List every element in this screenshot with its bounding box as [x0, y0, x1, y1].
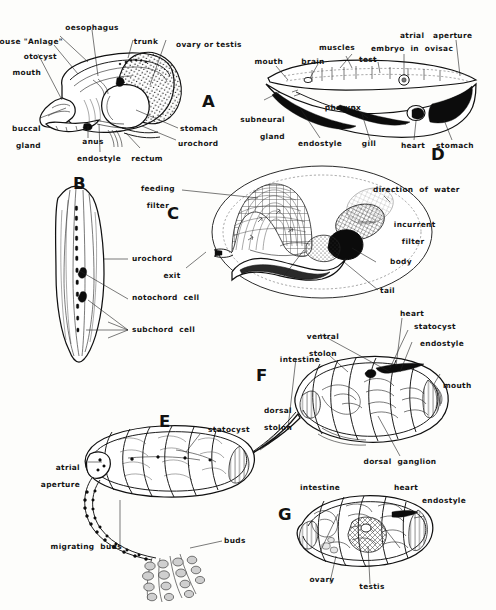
label-c-tail: tail — [380, 287, 395, 296]
label-a-buccal-gland-line2: gland — [16, 141, 41, 150]
label-c-exit: exit — [163, 272, 180, 281]
label-d-embryo-in-ovisac: embryo in ovisac — [371, 45, 453, 54]
label-d-pharynx: pharynx — [325, 104, 361, 113]
label-f-dorsal-ganglion: dorsal ganglion — [364, 458, 437, 467]
label-a-ovary-or-testis: ovary or testis — [176, 41, 242, 50]
label-g-intestine: intestine — [300, 484, 340, 493]
label-g-testis: testis — [359, 583, 385, 592]
panel-g-artwork — [297, 496, 433, 584]
label-c-direction-of-water: direction of water — [373, 186, 460, 195]
label-f-heart: heart — [400, 310, 424, 319]
label-d-atrial-aperture: atrial aperture — [400, 32, 472, 41]
label-a-trunk: trunk — [134, 38, 158, 47]
label-d-subneural-line2: gland — [260, 132, 285, 141]
label-c-feeding-filter: feeding filter — [135, 176, 175, 210]
label-e-statocyst: statocyst — [208, 426, 250, 435]
panel-b-artwork — [56, 186, 129, 362]
label-e-migrating-buds: migrating buds — [51, 543, 122, 552]
panel-letter-e: E — [159, 412, 170, 431]
label-a-oesophagus: oesophagus — [65, 24, 119, 33]
label-f-endostyle: endostyle — [420, 340, 464, 349]
figure-plate: A D B C F E G oesophagus house "Anlage" … — [0, 0, 496, 610]
label-a-buccal-gland: buccal gland — [6, 116, 41, 150]
label-d-subneural-gland: subneural gland — [234, 107, 285, 141]
label-f-mouth: mouth — [443, 382, 472, 391]
label-f-ventral-line1: ventral — [307, 332, 339, 341]
label-e-atrial-line2: aperture — [41, 480, 80, 489]
label-d-brain: brain — [301, 58, 324, 67]
label-a-endostyle: endostyle — [77, 155, 121, 164]
label-f-dorsal-line2: stolon — [264, 423, 292, 432]
label-e-buds: buds — [224, 537, 246, 546]
panel-letter-g: G — [278, 505, 292, 524]
label-a-rectum: rectum — [131, 155, 163, 164]
label-d-mouth: mouth — [254, 58, 283, 67]
label-c-incurrent-line2: filter — [402, 238, 425, 247]
label-d-test: test — [359, 56, 377, 65]
label-d-muscles: muscles — [319, 44, 355, 53]
label-c-feeding-line1: feeding — [141, 184, 175, 193]
label-a-urochord: urochord — [178, 140, 218, 149]
panel-letter-f: F — [256, 366, 267, 385]
label-f-statocyst: statocyst — [414, 323, 456, 332]
label-d-stomach: stomach — [436, 142, 474, 151]
label-f-ventral-stolon: ventral stolon — [301, 324, 339, 358]
label-c-incurrent-filter: incurrent filter — [388, 212, 436, 246]
panel-f-artwork — [240, 318, 448, 460]
label-f-dorsal-stolon: dorsal stolon — [258, 398, 292, 432]
label-a-house-anlage: house "Anlage" — [0, 38, 63, 47]
label-c-feeding-line2: filter — [147, 201, 170, 210]
label-e-atrial-line1: atrial — [56, 463, 80, 472]
label-d-endostyle: endostyle — [298, 140, 342, 149]
label-d-subneural-line1: subneural — [240, 115, 285, 124]
panel-letter-b: B — [73, 174, 86, 193]
label-b-urochord: urochord — [132, 255, 172, 264]
label-e-atrial-aperture: atrial aperture — [35, 455, 80, 489]
label-d-gill: gill — [362, 140, 376, 149]
label-b-subchord-cell: subchord cell — [132, 326, 195, 335]
panel-a-artwork — [38, 30, 189, 152]
label-g-endostyle: endostyle — [422, 497, 466, 506]
label-d-heart: heart — [401, 142, 425, 151]
label-c-body: body — [390, 258, 412, 267]
label-a-mouth: mouth — [12, 69, 41, 78]
panel-letter-a: A — [202, 92, 215, 111]
label-c-incurrent-line1: incurrent — [394, 220, 436, 229]
label-a-stomach: stomach — [180, 125, 218, 134]
label-g-heart: heart — [394, 484, 418, 493]
label-g-ovary: ovary — [309, 576, 334, 585]
label-b-notochord-cell: notochord cell — [132, 294, 199, 303]
label-a-buccal-gland-line1: buccal — [12, 124, 41, 133]
label-a-anus: anus — [82, 138, 103, 147]
label-a-otocyst: otocyst — [24, 53, 57, 62]
label-f-dorsal-line1: dorsal — [264, 406, 292, 415]
panel-e-artwork — [84, 426, 255, 602]
figure-artwork — [0, 0, 496, 610]
label-f-intestine: intestine — [280, 356, 320, 365]
